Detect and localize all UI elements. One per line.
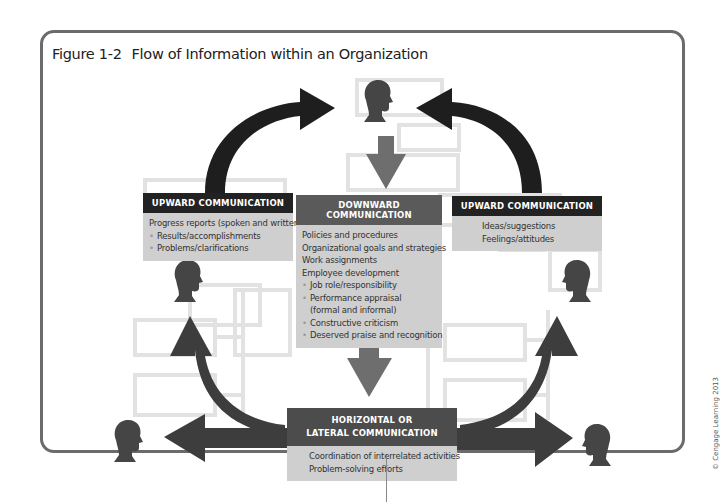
copyright-notice: © Cengage Learning 2013 — [712, 377, 720, 470]
head-icon-right — [562, 260, 591, 302]
list-item: Employee development — [302, 267, 436, 280]
box-body: Policies and procedures Organizational g… — [296, 225, 442, 348]
box-body: Coordination of interrelated activities … — [287, 446, 457, 481]
list-item: Performance appraisal — [302, 292, 436, 305]
list-item: Feelings/attitudes — [482, 233, 596, 246]
list-item: Organizational goals and strategies — [302, 242, 436, 255]
horizontal-communication-box: HORIZONTAL OR LATERAL COMMUNICATION Coor… — [287, 408, 457, 481]
list-item: Ideas/suggestions — [482, 220, 596, 233]
list-item: Problem-solving efforts — [309, 463, 451, 476]
list-item: Results/accomplishments — [149, 230, 287, 243]
head-icon-left — [174, 260, 203, 302]
upward-communication-right-box: UPWARD COMMUNICATION Ideas/suggestions F… — [452, 196, 602, 251]
list-item: Policies and procedures — [302, 229, 436, 242]
list-item: Progress reports (spoken and written) — [149, 217, 287, 230]
box-body: Ideas/suggestions Feelings/attitudes — [452, 216, 602, 251]
list-item: (formal and informal) — [302, 304, 436, 317]
list-item: Work assignments — [302, 254, 436, 267]
upward-communication-left-box: UPWARD COMMUNICATION Progress reports (s… — [143, 193, 293, 261]
list-item: Job role/responsibility — [302, 279, 436, 292]
list-item: Coordination of interrelated activities — [309, 450, 451, 463]
divider-line — [386, 455, 387, 502]
list-item: Deserved praise and recognition — [302, 329, 436, 342]
upward-arrow-left — [205, 88, 335, 193]
box-header: UPWARD COMMUNICATION — [143, 193, 293, 213]
head-icon-bottom-right — [582, 424, 611, 466]
upward-arrow-right — [416, 88, 542, 193]
box-header: UPWARD COMMUNICATION — [452, 196, 602, 216]
head-icon-bottom-left — [114, 420, 143, 462]
box-header-line: HORIZONTAL OR — [291, 414, 453, 427]
downward-communication-box: DOWNWARD COMMUNICATION Policies and proc… — [296, 195, 442, 348]
downward-arrow-bottom — [347, 346, 392, 397]
horizontal-arrow-left — [164, 414, 290, 462]
box-body: Progress reports (spoken and written) Re… — [143, 213, 293, 261]
box-header: HORIZONTAL OR LATERAL COMMUNICATION — [287, 408, 457, 446]
list-item: Problems/clarifications — [149, 242, 287, 255]
box-header-line: LATERAL COMMUNICATION — [291, 427, 453, 440]
box-header: DOWNWARD COMMUNICATION — [296, 195, 442, 225]
list-item: Constructive criticism — [302, 317, 436, 330]
